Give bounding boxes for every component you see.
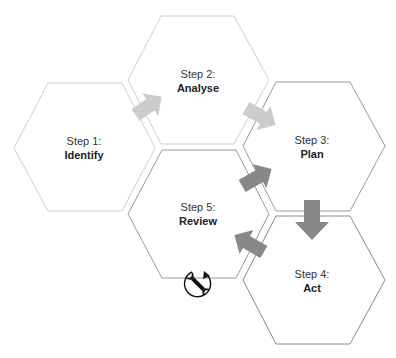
step-name: Identify [34, 148, 134, 162]
step-plan-label: Step 3: Plan [262, 133, 362, 161]
step-number: Step 3: [262, 133, 362, 147]
step-number: Step 1: [34, 134, 134, 148]
step-act-label: Step 4: Act [262, 267, 362, 295]
step-number: Step 5: [148, 200, 248, 214]
step-name: Plan [262, 147, 362, 161]
process-diagram [0, 0, 396, 358]
step-review-label: Step 5: Review [148, 200, 248, 228]
step-analyse-label: Step 2: Analyse [148, 67, 248, 95]
step-name: Analyse [148, 81, 248, 95]
step-number: Step 4: [262, 267, 362, 281]
step-name: Review [148, 214, 248, 228]
step-number: Step 2: [148, 67, 248, 81]
step-identify-label: Step 1: Identify [34, 134, 134, 162]
step-name: Act [262, 281, 362, 295]
